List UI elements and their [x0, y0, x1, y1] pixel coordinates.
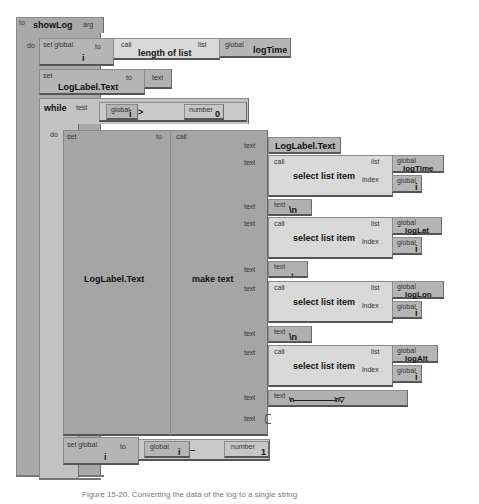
- set-global-i-decrement-block[interactable]: set global i to: [63, 437, 139, 465]
- text-label: text: [152, 74, 163, 81]
- global-logTime-getter[interactable]: global logTime: [392, 155, 444, 173]
- number-label: number: [189, 106, 213, 113]
- text-label: text: [274, 392, 285, 399]
- var-i: i: [129, 109, 132, 119]
- while-footer: [39, 478, 101, 480]
- call-label: call: [176, 133, 187, 140]
- number-1-block[interactable]: number 1: [224, 441, 269, 458]
- number-value[interactable]: 0: [215, 109, 220, 119]
- set-global-label: set global: [67, 441, 97, 448]
- global-i-getter[interactable]: global i: [392, 301, 422, 319]
- index-label: index: [362, 302, 379, 309]
- socket-label: text: [244, 394, 255, 401]
- minus-operator[interactable]: –: [190, 445, 195, 455]
- global-label: global: [111, 106, 130, 113]
- gt-operator[interactable]: >: [138, 107, 143, 117]
- target: LogLabel.Text: [84, 274, 144, 284]
- do-label: do: [27, 42, 35, 49]
- func-name: select list item: [293, 171, 355, 181]
- procedure-name[interactable]: showLog: [33, 20, 73, 30]
- socket-label: text: [244, 159, 255, 166]
- socket-label: text: [244, 220, 255, 227]
- var-name: logLon: [405, 290, 432, 299]
- select-list-item-logLon[interactable]: call select list item list index: [268, 281, 393, 323]
- var-i: i: [178, 447, 181, 457]
- length-of-list-block[interactable]: call length of list list: [113, 38, 220, 60]
- var-name: logAlt: [405, 354, 428, 363]
- global-label: global: [397, 367, 416, 374]
- number-value[interactable]: 1: [261, 447, 266, 457]
- global-label: global: [397, 347, 416, 354]
- var-i: i: [104, 452, 107, 462]
- global-label: global: [150, 443, 169, 450]
- text-value[interactable]: \n: [289, 205, 297, 215]
- figure-caption: Figure 15-20. Converting the data of the…: [82, 490, 297, 499]
- var-i: i: [415, 372, 418, 382]
- global-i-getter[interactable]: global i: [392, 175, 422, 193]
- list-label: list: [198, 41, 207, 48]
- text-newline-block[interactable]: text \n: [268, 199, 312, 216]
- global-label: global: [397, 177, 416, 184]
- text-label: text: [274, 263, 285, 270]
- empty-text-socket[interactable]: [265, 414, 271, 424]
- global-i-getter[interactable]: global i: [392, 365, 422, 383]
- test-label: test: [76, 104, 87, 111]
- select-list-item-logLat[interactable]: call select list item list index: [268, 217, 393, 259]
- number-0-block[interactable]: number 0: [184, 104, 224, 120]
- to-label: to: [95, 43, 101, 50]
- var-name: logLat: [405, 226, 429, 235]
- socket-label: text: [244, 266, 255, 273]
- make-text-block[interactable]: call make text: [170, 130, 268, 436]
- to-label: to: [156, 133, 162, 140]
- global-i-getter[interactable]: global i: [144, 441, 190, 458]
- var-i: i: [415, 308, 418, 318]
- arg-label: arg: [83, 21, 93, 28]
- set-loglabel-block[interactable]: set LogLabel.Text to: [39, 69, 145, 95]
- global-logTime-getter[interactable]: global logTime: [219, 38, 291, 58]
- global-label: global: [397, 157, 416, 164]
- set-global-i-block[interactable]: set global i to: [39, 38, 114, 66]
- global-logLon-getter[interactable]: global logLon: [392, 281, 444, 299]
- call-label: call: [274, 158, 285, 165]
- set-label: set: [67, 133, 76, 140]
- func-name: make text: [192, 274, 234, 284]
- loglabel-text-getter[interactable]: LogLabel.Text: [268, 137, 341, 154]
- func-name: length of list: [138, 48, 192, 58]
- global-label: global: [225, 41, 244, 48]
- to-label: to: [126, 74, 132, 81]
- var-name: logTime: [253, 45, 287, 55]
- set-label: set: [43, 72, 52, 79]
- list-label: list: [371, 348, 380, 355]
- global-label: global: [397, 219, 416, 226]
- procedure-header[interactable]: to showLog arg: [16, 17, 104, 33]
- func-name: select list item: [293, 233, 355, 243]
- text-value[interactable]: ,: [291, 267, 294, 277]
- text-newline-block[interactable]: text \n: [268, 326, 312, 343]
- list-label: list: [371, 284, 380, 291]
- index-label: index: [362, 366, 379, 373]
- var-i: i: [415, 244, 418, 254]
- text-value[interactable]: \n-------------------------------\n▽: [289, 396, 343, 404]
- global-i-getter[interactable]: global i: [392, 237, 422, 255]
- call-label: call: [274, 220, 285, 227]
- to-label: to: [19, 19, 25, 26]
- socket-label: text: [244, 142, 255, 149]
- empty-text-block[interactable]: text: [144, 69, 172, 89]
- global-label: global: [397, 239, 416, 246]
- global-i-getter[interactable]: global i: [106, 104, 138, 120]
- select-list-item-logAlt[interactable]: call select list item list index: [268, 345, 393, 387]
- socket-label: text: [244, 330, 255, 337]
- global-logAlt-getter[interactable]: global logAlt: [392, 345, 438, 363]
- set-global-label: set global: [43, 41, 73, 48]
- to-label: to: [120, 443, 126, 450]
- global-logLat-getter[interactable]: global logLat: [392, 217, 442, 235]
- socket-label: text: [244, 415, 255, 422]
- set-loglabel-make-text-block[interactable]: set LogLabel.Text to: [63, 130, 171, 436]
- select-list-item-logTime[interactable]: call select list item list index: [268, 155, 393, 197]
- call-label: call: [274, 284, 285, 291]
- list-label: list: [371, 220, 380, 227]
- text-comma-block[interactable]: text ,: [268, 261, 308, 278]
- text-value[interactable]: \n: [289, 332, 297, 342]
- text-separator-block[interactable]: text \n-------------------------------\n…: [268, 390, 408, 407]
- call-label: call: [274, 348, 285, 355]
